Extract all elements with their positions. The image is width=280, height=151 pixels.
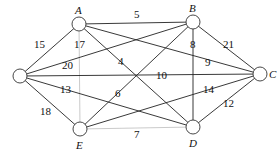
weight-c-e: 14 — [203, 83, 215, 95]
weight-o-e: 18 — [40, 105, 52, 117]
weight-a-b: 5 — [134, 8, 140, 20]
weight-a-e: 17 — [74, 38, 86, 50]
weight-o-d: 13 — [60, 83, 72, 95]
edge-o-e — [20, 76, 80, 129]
weight-e-d: 7 — [134, 128, 140, 140]
weight-b-c: 21 — [223, 38, 234, 50]
weight-c-d: 12 — [223, 97, 234, 109]
node-label-c: C — [269, 68, 277, 80]
node-label-e: E — [75, 139, 83, 151]
node-label-d: D — [188, 137, 197, 149]
weighted-graph-diagram: A B C D E 15 17 5 8 21 20 4 10 9 13 6 14… — [0, 0, 280, 151]
weight-b-d: 8 — [190, 38, 196, 50]
edge-o-d — [20, 76, 193, 127]
weight-o-b: 20 — [62, 59, 74, 71]
node-d — [186, 120, 200, 134]
node-label-b: B — [189, 2, 196, 14]
edge-a-b — [79, 22, 193, 24]
node-o — [13, 69, 27, 83]
node-label-a: A — [74, 4, 82, 16]
weight-a-d: 4 — [118, 55, 124, 67]
node-c — [253, 67, 267, 81]
weight-o-c: 10 — [156, 69, 168, 81]
node-a — [72, 17, 86, 31]
edge-o-c — [20, 74, 260, 76]
node-e — [73, 122, 87, 136]
weight-a-c: 9 — [205, 56, 211, 68]
weight-o-a: 15 — [34, 38, 46, 50]
node-b — [186, 15, 200, 29]
weight-b-e: 6 — [115, 87, 121, 99]
